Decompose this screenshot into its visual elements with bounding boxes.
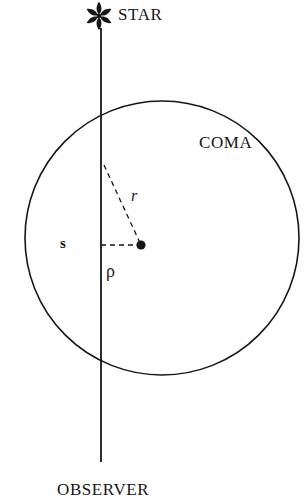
projected-distance-rho-label: ρ [106,262,115,280]
dashed-line-r [104,165,141,245]
observer-label: OBSERVER [57,481,149,498]
coma-label: COMA [199,134,252,151]
nucleus-dot-icon [136,240,145,249]
coma-circle [25,101,299,375]
diagram-canvas [0,0,307,504]
star-label: STAR [118,6,163,23]
comet-coma-occultation-diagram: STAR COMA OBSERVER r s ρ [0,0,307,504]
radius-r-label: r [131,188,137,204]
star-asterisk-icon [85,2,112,30]
impact-parameter-s-label: s [60,236,66,251]
